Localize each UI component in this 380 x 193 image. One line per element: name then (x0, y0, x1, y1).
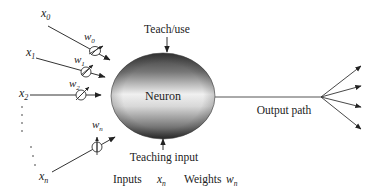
output-arrow-2 (321, 86, 361, 97)
output-path-label: Output path (257, 104, 312, 117)
input-label-x2: x2 (18, 86, 28, 102)
weight-wn-icon (92, 137, 102, 155)
weight-label-w0: w0 (84, 30, 95, 45)
ellipsis-dots (21, 106, 36, 166)
teach-use-label: Teach/use (144, 23, 190, 35)
neuron-label: Neuron (145, 89, 181, 103)
neuron-diagram: x0 x1 x2 xn w0 w1 w2 wn Neuron Teach/use… (0, 0, 380, 193)
input-x1-line (36, 58, 105, 77)
legend-weights-symbol: wn (226, 173, 238, 188)
weight-w0-icon (89, 46, 103, 56)
input-lines (30, 26, 115, 172)
input-label-x1: x1 (25, 45, 35, 61)
teaching-input-label: Teaching input (130, 151, 199, 164)
legend-inputs-symbol: xn (156, 173, 166, 188)
legend-weights-label: Weights (184, 173, 222, 186)
weight-label-wn: wn (92, 118, 103, 133)
output-arrow-1 (321, 66, 361, 97)
output-fan-arrows (321, 66, 361, 129)
weight-label-w1: w1 (74, 53, 85, 68)
input-label-xn: xn (38, 169, 48, 185)
input-label-x0: x0 (40, 6, 50, 22)
legend-inputs-label: Inputs (113, 173, 142, 186)
weight-label-w2: w2 (69, 77, 80, 92)
input-xn-line (52, 137, 115, 172)
